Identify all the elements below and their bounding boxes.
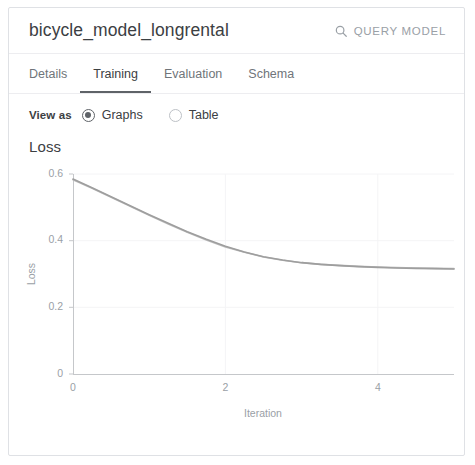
- tab-details-label: Details: [29, 67, 67, 81]
- y-tick-label-1: 0.2: [48, 300, 63, 312]
- chart-axes: [73, 174, 454, 375]
- tab-details[interactable]: Details: [29, 54, 80, 93]
- search-icon: [334, 24, 348, 38]
- x-tick-label-0: 0: [70, 381, 76, 393]
- tab-training[interactable]: Training: [80, 54, 151, 93]
- y-tick-label-3: 0.6: [48, 167, 63, 179]
- model-details-card: bicycle_model_longrental QUERY MODEL Det…: [8, 7, 465, 456]
- y-axis-title: Loss: [25, 263, 37, 285]
- radio-table-indicator[interactable]: [169, 109, 182, 122]
- y-tick-label-2: 0.4: [48, 233, 63, 245]
- page-title: bicycle_model_longrental: [29, 20, 229, 41]
- view-as-row: View as Graphs Table: [9, 94, 464, 122]
- loss-chart-svg: 0.6 0.4 0.2 0 0 2 4 Loss Iteration: [9, 159, 464, 431]
- tab-schema-label: Schema: [248, 67, 294, 81]
- series-line-training-loss: [73, 179, 454, 269]
- chart-title: Loss: [9, 122, 464, 155]
- card-header: bicycle_model_longrental QUERY MODEL: [9, 8, 464, 54]
- y-axis-ticks: 0.6 0.4 0.2 0: [48, 167, 73, 379]
- tab-bar: Details Training Evaluation Schema: [9, 54, 464, 94]
- query-model-button[interactable]: QUERY MODEL: [332, 20, 448, 42]
- tab-evaluation[interactable]: Evaluation: [151, 54, 235, 93]
- x-tick-label-2: 4: [375, 381, 381, 393]
- loss-chart: 0.6 0.4 0.2 0 0 2 4 Loss Iteration: [9, 159, 464, 431]
- chart-gridlines: [73, 174, 454, 374]
- x-axis-title: Iteration: [244, 407, 282, 419]
- x-tick-label-1: 2: [222, 381, 228, 393]
- radio-graphs-indicator[interactable]: [82, 109, 95, 122]
- x-axis-ticks: 0 2 4: [70, 381, 381, 393]
- radio-table-label: Table: [189, 108, 219, 122]
- series-line-evaluation-loss: [73, 180, 454, 269]
- y-tick-label-0: 0: [57, 367, 63, 379]
- query-model-label: QUERY MODEL: [354, 25, 446, 37]
- radio-graphs-label: Graphs: [102, 108, 143, 122]
- radio-option-graphs[interactable]: Graphs: [82, 108, 143, 122]
- tab-training-label: Training: [93, 67, 138, 81]
- view-as-label: View as: [29, 109, 72, 121]
- radio-option-table[interactable]: Table: [169, 108, 219, 122]
- tab-evaluation-label: Evaluation: [164, 67, 222, 81]
- tab-schema[interactable]: Schema: [235, 54, 307, 93]
